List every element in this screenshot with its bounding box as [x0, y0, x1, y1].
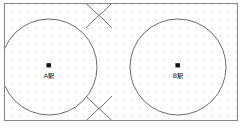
venn-diagram-svg: A駅 B駅 [0, 0, 244, 129]
station-a-label: A駅 [44, 72, 54, 80]
station-a-marker [46, 63, 51, 67]
station-b-marker [175, 63, 180, 67]
dot-grid [4, 3, 238, 121]
station-b-label: B駅 [173, 72, 183, 80]
diagram-canvas: A駅 B駅 [0, 0, 244, 129]
